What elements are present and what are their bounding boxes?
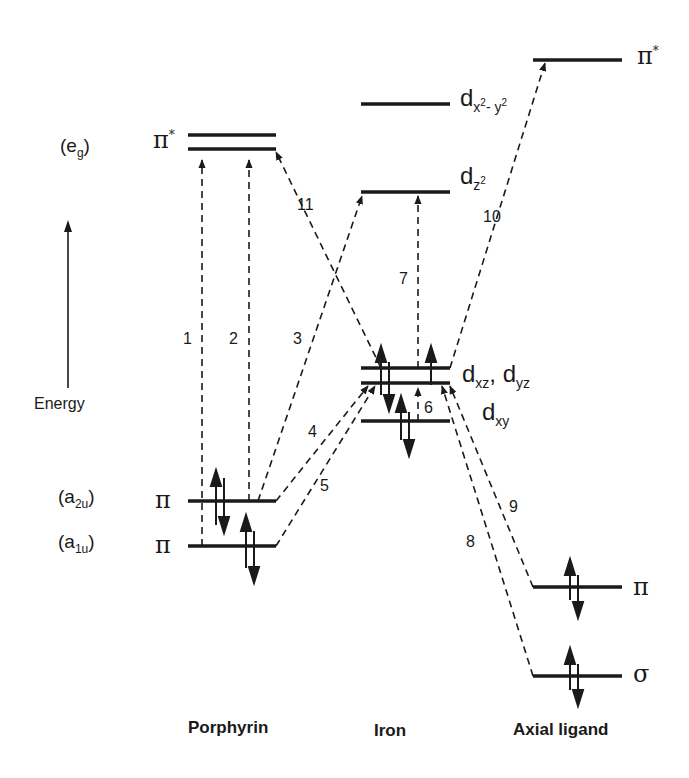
transition-label-7: 7 bbox=[399, 271, 408, 287]
transition-label-6: 6 bbox=[424, 400, 433, 416]
transition-8 bbox=[442, 386, 533, 676]
energy-axis-arrow bbox=[64, 220, 72, 388]
column-label-axial-ligand: Axial ligand bbox=[513, 721, 608, 738]
transition-label-3: 3 bbox=[293, 331, 302, 347]
label-dz2: dz2 bbox=[460, 164, 486, 192]
transition-11 bbox=[276, 152, 381, 368]
mo-diagram-canvas bbox=[0, 0, 689, 778]
label-a2u: (a2u) bbox=[58, 487, 95, 510]
column-label-iron: Iron bbox=[374, 722, 406, 739]
label-axial-pi: π bbox=[633, 575, 649, 599]
transition-5 bbox=[276, 386, 375, 546]
iron-levels bbox=[361, 104, 450, 421]
electron-spins bbox=[211, 346, 583, 706]
label-porphyrin-pi-a2u: π bbox=[155, 488, 171, 512]
transition-label-10: 10 bbox=[483, 209, 501, 225]
label-dxy: dxy bbox=[482, 400, 509, 428]
transition-label-8: 8 bbox=[466, 534, 475, 550]
transition-label-9: 9 bbox=[509, 499, 518, 515]
spin-pair-a1u bbox=[241, 515, 259, 583]
energy-axis-label: Energy bbox=[34, 396, 85, 412]
label-a1u: (a1u) bbox=[58, 532, 95, 555]
label-dxz-dyz: dxz, dyz bbox=[462, 362, 530, 390]
spin-pair-dxy bbox=[396, 396, 414, 456]
transition-label-5: 5 bbox=[320, 478, 329, 494]
transition-label-1: 1 bbox=[183, 331, 192, 347]
label-eg: (eg) bbox=[60, 136, 90, 159]
label-porphyrin-pi-a1u: π bbox=[155, 533, 171, 557]
column-label-porphyrin: Porphyrin bbox=[188, 719, 268, 736]
label-dx2y2: dx2- y2 bbox=[460, 86, 507, 114]
transition-label-4: 4 bbox=[308, 424, 317, 440]
transition-label-11: 11 bbox=[297, 197, 314, 213]
label-axial-pi-star: π* bbox=[637, 44, 659, 68]
transition-label-2: 2 bbox=[229, 331, 238, 347]
label-axial-sigma: σ bbox=[633, 662, 649, 686]
transition-3 bbox=[258, 196, 362, 501]
label-porphyrin-pi-star: π* bbox=[153, 128, 175, 152]
